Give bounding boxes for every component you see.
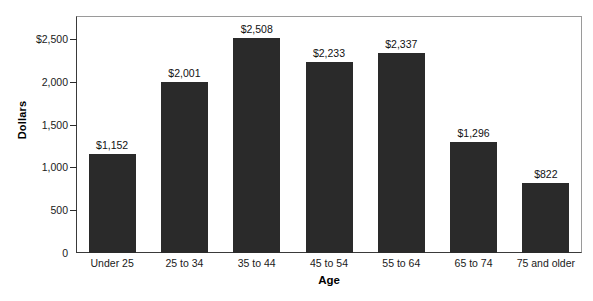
y-tick-label: $2,500 [12,33,68,45]
bar-value-label: $1,152 [96,139,128,151]
bar [450,142,497,253]
x-tick-label: 35 to 44 [238,257,276,269]
y-tick-mark [70,210,77,211]
x-tick-label: Under 25 [91,257,134,269]
bar [306,62,353,253]
bar [233,38,280,253]
y-tick-label: 1,500 [12,119,68,131]
bar [89,154,136,253]
bar-chart: Dollars 05001,0001,5002,000$2,500 $1,152… [0,0,593,301]
y-tick-label: 0 [12,247,68,259]
x-tick-label: 55 to 64 [382,257,420,269]
bar-group: $1,152 [89,16,136,253]
x-tick-label: 75 and older [517,257,575,269]
y-tick-label: 500 [12,204,68,216]
y-tick-label: 1,000 [12,161,68,173]
bar [378,53,425,253]
x-tick-label: 25 to 34 [165,257,203,269]
y-tick-label: 2,000 [12,76,68,88]
bar [161,82,208,253]
bar-group: $822 [522,16,569,253]
bar-value-label: $2,001 [168,67,200,79]
bar-group: $2,337 [378,16,425,253]
bar-group: $1,296 [450,16,497,253]
bar-value-label: $2,508 [241,23,273,35]
bar-value-label: $1,296 [458,127,490,139]
bar-group: $2,233 [306,16,353,253]
bar [522,183,569,253]
bar-group: $2,001 [161,16,208,253]
x-tick-label: 65 to 74 [455,257,493,269]
bar-group: $2,508 [233,16,280,253]
y-tick-mark [70,82,77,83]
y-tick-mark [70,39,77,40]
bar-value-label: $822 [534,168,557,180]
x-axis-title: Age [76,274,582,286]
bars-layer: $1,152$2,001$2,508$2,233$2,337$1,296$822 [76,16,582,253]
x-axis-tick-labels: Under 2525 to 3435 to 4445 to 5455 to 64… [76,257,582,273]
y-tick-mark [70,125,77,126]
x-tick-label: 45 to 54 [310,257,348,269]
bar-value-label: $2,337 [385,38,417,50]
bar-value-label: $2,233 [313,47,345,59]
y-axis-tick-labels: 05001,0001,5002,000$2,500 [6,0,68,301]
y-tick-mark [70,167,77,168]
